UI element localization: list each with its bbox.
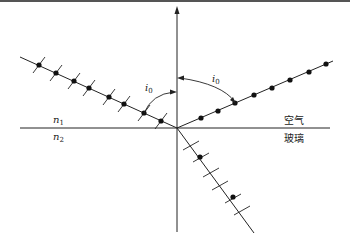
incident-ray (20, 57, 177, 129)
reflect-angle-label: i0 (212, 74, 220, 86)
incident-angle-label: i0 (145, 83, 153, 95)
n2-label: n2 (53, 132, 64, 144)
reflect-angle-arrow-left-icon (177, 76, 184, 81)
incident-angle-arc (144, 92, 174, 113)
air-label: 空气 (284, 116, 304, 126)
refracted-ray (177, 128, 254, 233)
glass-label: 玻璃 (284, 134, 304, 144)
normal-arrow-icon (175, 6, 180, 14)
incident-angle-arrow-icon (170, 90, 177, 95)
reflect-angle-arc (180, 78, 235, 102)
n1-label: n1 (53, 115, 64, 127)
reflected-ray (177, 61, 333, 128)
